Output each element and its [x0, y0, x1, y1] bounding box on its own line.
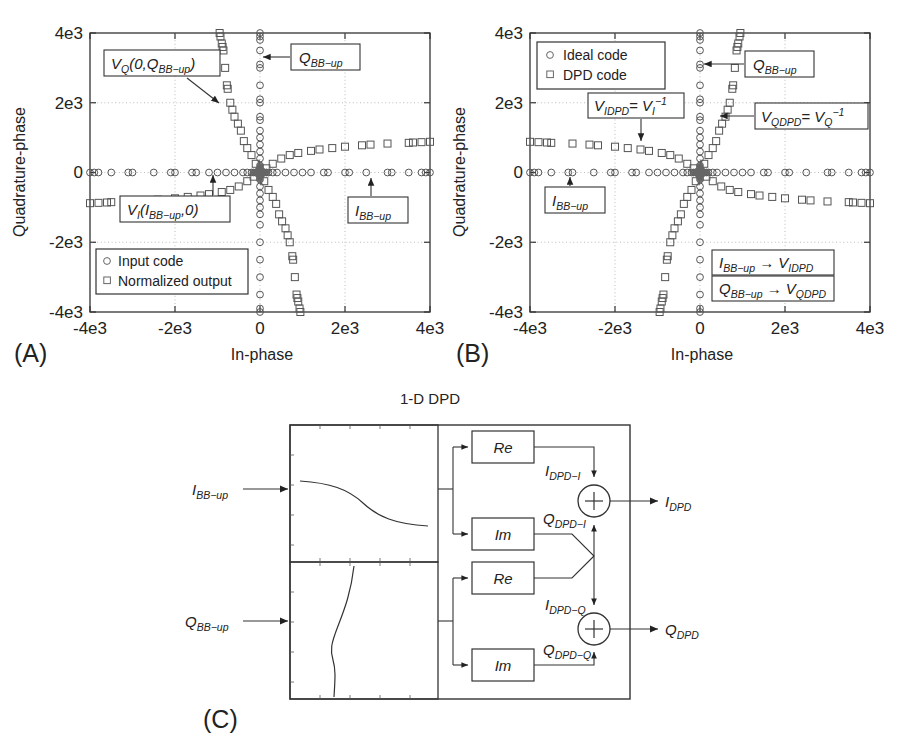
im-block-2: Im — [472, 649, 534, 681]
re-block-2: Re — [472, 562, 534, 594]
panel-b-ytick-3: -2e3 — [489, 233, 523, 252]
panel-b-ylabel: Quadrature-phase — [451, 107, 468, 237]
panel-b-xlabel: In-phase — [671, 346, 733, 363]
panel-a-xlabel: In-phase — [231, 346, 293, 363]
im-block-2-label: Im — [495, 657, 512, 674]
panel-c-label: (C) — [203, 705, 238, 733]
panel-b-ytick-0: 4e3 — [495, 24, 523, 43]
panel-b-map-i-annotation: IBB−up → VIDPD — [712, 250, 834, 275]
panel-a-ytick-2: 0 — [74, 163, 83, 182]
panel-a-legend-label-0: Input code — [118, 253, 184, 269]
panel-b-label: (B) — [456, 339, 489, 367]
im-block-1-label: Im — [495, 526, 512, 543]
panel-b-legend: Ideal code DPD code — [537, 42, 665, 89]
panel-b-xtick-0: -4e3 — [513, 319, 547, 338]
panel-a-xtick-4: 4e3 — [416, 319, 444, 338]
panel-a-ytick-3: -2e3 — [49, 233, 83, 252]
panel-b-legend-label-0: Ideal code — [563, 47, 628, 63]
panel-a-label: (A) — [14, 339, 47, 367]
panel-a-xtick-3: 2e3 — [331, 319, 359, 338]
adder-q — [578, 613, 610, 645]
panel-b-map-q-annotation: QBB−up → VQDPD — [712, 276, 834, 301]
im-block-1: Im — [472, 518, 534, 550]
panel-a-xtick-2: 0 — [255, 319, 264, 338]
re-block-2-label: Re — [493, 570, 512, 587]
panel-b-ytick-1: 2e3 — [495, 94, 523, 113]
panel-a-xtick-1: -2e3 — [158, 319, 192, 338]
panel-b-xtick-3: 2e3 — [771, 319, 799, 338]
panel-b-xtick-1: -2e3 — [598, 319, 632, 338]
panel-b-xtick-2: 0 — [695, 319, 704, 338]
panel-b-legend-label-1: DPD code — [563, 67, 627, 83]
figure-svg: Quadrature-phase 4e3 — [0, 0, 900, 743]
panel-c-title: 1-D DPD — [400, 390, 460, 407]
panel-a-ylabel: Quadrature-phase — [11, 107, 28, 237]
panel-a-legend-label-1: Normalized output — [118, 273, 232, 289]
figure-root: Quadrature-phase 4e3 — [0, 0, 900, 743]
panel-a-legend: Input code Normalized output — [96, 249, 248, 294]
panel-a-ytick-1: 2e3 — [55, 94, 83, 113]
re-block-1: Re — [472, 431, 534, 463]
panel-b-ytick-2: 0 — [514, 163, 523, 182]
panel-b-xtick-4: 4e3 — [856, 319, 884, 338]
panel-a-ytick-0: 4e3 — [55, 24, 83, 43]
re-block-1-label: Re — [493, 439, 512, 456]
panel-a-xtick-0: -4e3 — [73, 319, 107, 338]
adder-i — [578, 485, 610, 517]
